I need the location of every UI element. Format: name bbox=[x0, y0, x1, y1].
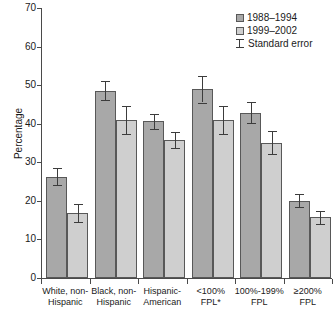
x-axis-group-label-line: ≥200% bbox=[281, 286, 334, 297]
error-bar bbox=[57, 168, 58, 186]
x-axis-group-label-line: FPL bbox=[281, 297, 334, 308]
error-bar-cap bbox=[150, 129, 159, 130]
error-bar-cap bbox=[74, 204, 83, 205]
x-axis-group-label: Black, non-Hispanic bbox=[87, 286, 142, 308]
error-bar bbox=[320, 211, 321, 224]
error-bar bbox=[154, 114, 155, 129]
y-axis-tick-label: 60 bbox=[14, 42, 36, 52]
error-bar-cap bbox=[122, 134, 131, 135]
x-axis-tick-mark bbox=[332, 279, 333, 284]
y-axis-tick-label: 40 bbox=[14, 119, 36, 129]
y-axis-title: Percentage bbox=[13, 74, 24, 194]
x-axis-group-label-line: White, non- bbox=[38, 286, 93, 297]
x-axis-group-label-line: American bbox=[135, 297, 190, 308]
legend-item: 1988–1994 bbox=[236, 11, 312, 24]
x-axis-tick-mark bbox=[187, 279, 188, 284]
x-axis-group-label: White, non-Hispanic bbox=[38, 286, 93, 308]
x-axis-group-label-line: FPL bbox=[232, 297, 287, 308]
y-axis-tick-label: 10 bbox=[14, 234, 36, 244]
y-axis-tick-label: 30 bbox=[14, 157, 36, 167]
bar bbox=[310, 217, 331, 278]
error-bar-cap bbox=[171, 148, 180, 149]
error-bar-cap bbox=[53, 168, 62, 169]
error-bar-cap bbox=[219, 106, 228, 107]
error-bar-cap bbox=[101, 100, 110, 101]
x-axis-tick-mark bbox=[138, 279, 139, 284]
error-bar-cap bbox=[122, 106, 131, 107]
x-axis-group-label-line: Hispanic bbox=[38, 297, 93, 308]
bar bbox=[289, 201, 310, 278]
y-axis-tick-label: 50 bbox=[14, 80, 36, 90]
error-bar bbox=[299, 194, 300, 207]
legend-item: 1999–2002 bbox=[236, 24, 312, 37]
error-bar-cap bbox=[101, 81, 110, 82]
error-bar-cap bbox=[316, 211, 325, 212]
y-axis-tick-label: 70 bbox=[14, 3, 36, 13]
y-axis-tick-label: 20 bbox=[14, 196, 36, 206]
bar bbox=[164, 140, 185, 278]
error-bar-cap bbox=[268, 154, 277, 155]
x-axis-group-label-line: 100%-199% bbox=[232, 286, 287, 297]
legend-label: 1999–2002 bbox=[247, 25, 297, 36]
error-bar-cap bbox=[171, 132, 180, 133]
error-bar-cap bbox=[268, 131, 277, 132]
error-bar-cap bbox=[295, 207, 304, 208]
x-axis-tick-mark bbox=[90, 279, 91, 284]
x-axis-group-label: <100%FPL* bbox=[184, 286, 239, 308]
error-bar-cap bbox=[53, 185, 62, 186]
bar bbox=[240, 113, 261, 278]
legend-item: Standard error bbox=[236, 37, 312, 50]
x-axis-tick-mark bbox=[41, 279, 42, 284]
error-bar bbox=[202, 76, 203, 102]
x-axis-tick-mark bbox=[284, 279, 285, 284]
x-axis-group-label-line: <100% bbox=[184, 286, 239, 297]
x-axis-group-label: 100%-199%FPL bbox=[232, 286, 287, 308]
bar bbox=[261, 143, 282, 278]
error-bar-cap bbox=[219, 134, 228, 135]
error-bar bbox=[223, 106, 224, 134]
legend-label: Standard error bbox=[248, 38, 312, 49]
error-bar-cap bbox=[247, 123, 256, 124]
legend: 1988–19941999–2002Standard error bbox=[236, 11, 312, 50]
error-bar bbox=[126, 106, 127, 134]
error-bar bbox=[105, 81, 106, 100]
x-axis-group-label-line: Hispanic- bbox=[135, 286, 190, 297]
x-axis-tick-mark bbox=[235, 279, 236, 284]
error-bar-cap bbox=[150, 114, 159, 115]
legend-swatch-icon bbox=[236, 14, 244, 22]
error-bar bbox=[251, 102, 252, 123]
bar bbox=[213, 120, 234, 278]
error-bar bbox=[175, 132, 176, 148]
bar bbox=[116, 120, 137, 278]
bar-chart-figure: Percentage 010203040506070 White, non-Hi… bbox=[0, 0, 334, 311]
x-axis-group-label-line: FPL* bbox=[184, 297, 239, 308]
bar bbox=[143, 121, 164, 278]
y-axis-tick-label: 0 bbox=[14, 273, 36, 283]
bar bbox=[192, 89, 213, 278]
x-axis-group-label-line: Hispanic bbox=[87, 297, 142, 308]
error-bar-cap bbox=[316, 224, 325, 225]
error-bar-cap bbox=[198, 76, 207, 77]
x-axis-group-label: ≥200%FPL bbox=[281, 286, 334, 308]
error-bar-cap bbox=[295, 194, 304, 195]
bar bbox=[46, 177, 67, 278]
legend-swatch-icon bbox=[236, 27, 244, 35]
bar bbox=[95, 91, 116, 278]
legend-error-bar-icon bbox=[236, 39, 244, 48]
x-axis-group-label-line: Black, non- bbox=[87, 286, 142, 297]
error-bar-cap bbox=[247, 102, 256, 103]
error-bar bbox=[78, 204, 79, 222]
error-bar-cap bbox=[74, 222, 83, 223]
error-bar bbox=[272, 131, 273, 153]
x-axis-group-label: Hispanic-American bbox=[135, 286, 190, 308]
error-bar-cap bbox=[198, 103, 207, 104]
legend-label: 1988–1994 bbox=[247, 12, 297, 23]
